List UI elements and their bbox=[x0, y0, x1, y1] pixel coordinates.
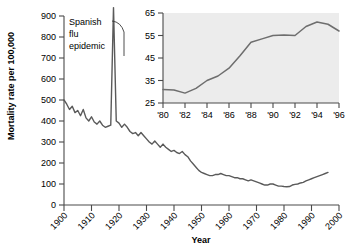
main-y-tick-label: 200 bbox=[41, 158, 56, 168]
main-x-tick-label: 1930 bbox=[131, 210, 152, 231]
inset-y-tick-label: 55 bbox=[145, 31, 155, 41]
main-y-tick-label: 800 bbox=[41, 32, 56, 42]
main-y-tick-label: 600 bbox=[41, 74, 56, 84]
main-x-tick-label: 1970 bbox=[241, 210, 262, 231]
main-x-tick-label: 1940 bbox=[158, 210, 179, 231]
main-y-tick-labels: 0100200300400500600700800900 bbox=[41, 11, 56, 210]
inset-x-tick-label: '84 bbox=[201, 110, 213, 120]
inset-y-tick-labels: 2535455565 bbox=[145, 8, 155, 108]
inset-x-tick-label: '80 bbox=[157, 110, 169, 120]
annotation-line-3: epidemic bbox=[69, 41, 106, 51]
spanish-flu-annotation: Spanish flu epidemic bbox=[69, 17, 124, 56]
inset-x-tick-labels: '80'82'84'86'88'90'92'94'96 bbox=[157, 110, 345, 120]
main-x-tick-label: 1960 bbox=[213, 210, 234, 231]
main-x-tick-label: 1980 bbox=[268, 210, 289, 231]
main-x-tick-label: 2000 bbox=[323, 210, 344, 231]
inset-x-tick-label: '82 bbox=[179, 110, 191, 120]
main-y-tick-label: 400 bbox=[41, 116, 56, 126]
inset-x-tick-label: '96 bbox=[333, 110, 345, 120]
inset-x-tick-label: '86 bbox=[223, 110, 235, 120]
inset-panel-background bbox=[163, 13, 339, 103]
main-x-tick-labels: 1900191019201930194019501960197019801990… bbox=[48, 210, 344, 231]
main-y-tick-label: 0 bbox=[51, 200, 56, 210]
inset-x-tick-label: '94 bbox=[311, 110, 323, 120]
annotation-line-2: flu bbox=[69, 29, 79, 39]
inset-chart: 2535455565 '80'82'84'86'88'90'92'94'96 bbox=[145, 8, 345, 120]
main-x-tick-label: 1990 bbox=[296, 210, 317, 231]
inset-x-tick-label: '92 bbox=[289, 110, 301, 120]
main-y-tick-label: 700 bbox=[41, 53, 56, 63]
main-x-axis-title: Year bbox=[191, 235, 211, 245]
main-x-tick-label: 1900 bbox=[48, 210, 69, 231]
inset-x-tick-label: '88 bbox=[245, 110, 257, 120]
inset-y-tick-label: 65 bbox=[145, 8, 155, 18]
main-y-axis-title: Mortality rate per 100,000 bbox=[6, 32, 16, 140]
inset-x-tick-marks bbox=[163, 103, 339, 108]
inset-y-tick-label: 25 bbox=[145, 98, 155, 108]
inset-y-tick-label: 35 bbox=[145, 76, 155, 86]
main-x-tick-label: 1910 bbox=[76, 210, 97, 231]
mortality-rate-chart-figure: 0100200300400500600700800900 19001910192… bbox=[0, 0, 351, 249]
inset-x-tick-label: '90 bbox=[267, 110, 279, 120]
main-y-tick-label: 300 bbox=[41, 137, 56, 147]
main-x-tick-marks bbox=[64, 205, 339, 211]
main-y-tick-marks bbox=[59, 16, 64, 205]
main-y-tick-label: 500 bbox=[41, 95, 56, 105]
inset-y-tick-label: 45 bbox=[145, 53, 155, 63]
main-y-tick-label: 900 bbox=[41, 11, 56, 21]
annotation-line-1: Spanish bbox=[69, 17, 102, 27]
main-x-tick-label: 1950 bbox=[186, 210, 207, 231]
main-x-tick-label: 1920 bbox=[103, 210, 124, 231]
main-y-tick-label: 100 bbox=[41, 179, 56, 189]
